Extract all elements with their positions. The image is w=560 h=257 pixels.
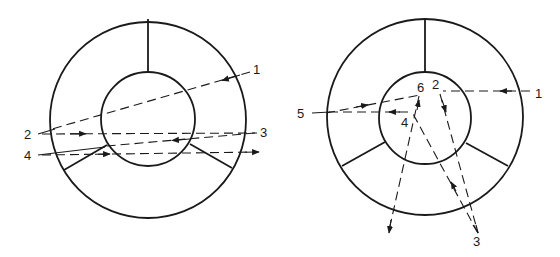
label-5: 5	[297, 106, 304, 121]
inner-circle	[101, 72, 195, 166]
arrow-icon	[172, 139, 190, 141]
spoke-lower-left	[342, 142, 385, 166]
label-2: 2	[432, 77, 439, 92]
label-1: 1	[253, 62, 260, 77]
label-4: 4	[401, 115, 408, 130]
label-3: 3	[260, 125, 267, 140]
label-6: 6	[417, 80, 424, 95]
spoke-lower-left	[64, 145, 107, 170]
spoke-lower-right	[190, 144, 232, 168]
arrow-icon	[356, 105, 368, 107]
label-3: 3	[473, 234, 480, 249]
spoke-lower-right	[466, 143, 508, 166]
ray-1	[52, 72, 250, 129]
ray-5	[326, 95, 420, 113]
arrow-icon	[389, 220, 391, 233]
label-2: 2	[24, 127, 31, 142]
label-4: 4	[24, 148, 31, 163]
ray-4	[42, 152, 258, 155]
inner-circle	[379, 72, 471, 164]
diagram-canvas: 1 2 3 4 1 2 3 4	[0, 0, 560, 257]
leader-2	[38, 129, 55, 134]
right-diagram: 1 2 3 4 5 6	[297, 19, 542, 249]
label-1: 1	[535, 86, 542, 101]
left-diagram: 1 2 3 4	[24, 19, 267, 218]
arrow-icon	[451, 182, 456, 191]
